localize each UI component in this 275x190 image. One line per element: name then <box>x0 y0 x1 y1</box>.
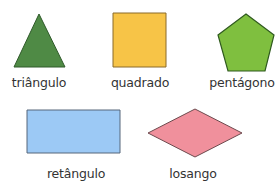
pentagon-label: pentágono <box>209 76 274 90</box>
rhombus-label: losango <box>169 167 216 181</box>
square-label: quadrado <box>111 76 169 90</box>
rectangle-shape <box>27 110 120 153</box>
shapes-figure: triângulo quadrado pentágono retângulo l… <box>0 0 275 190</box>
triangle-label: triângulo <box>12 76 66 90</box>
triangle-shape <box>14 14 65 67</box>
square-shape <box>113 13 166 67</box>
shapes-svg <box>0 0 275 190</box>
pentagon-shape <box>218 14 274 71</box>
rhombus-shape <box>148 109 242 157</box>
rectangle-label: retângulo <box>47 167 105 181</box>
